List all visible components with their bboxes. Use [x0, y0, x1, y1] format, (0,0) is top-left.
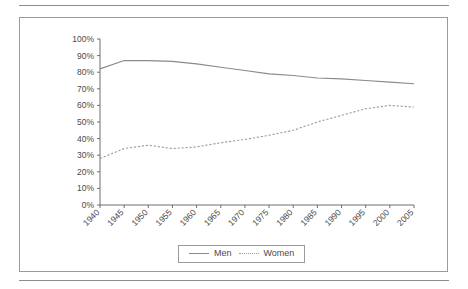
bottom-horizontal-rule	[19, 280, 449, 281]
x-axis-tick-label: 1995	[347, 207, 368, 228]
chart-page: 0%10%20%30%40%50%60%70%80%90%100% 194019…	[0, 0, 468, 289]
legend-label-men: Men	[214, 249, 232, 258]
series-group	[100, 61, 414, 159]
x-axis-tick-label: 2000	[371, 207, 392, 228]
top-horizontal-rule	[19, 5, 449, 6]
series-line-men	[100, 61, 414, 84]
x-axis-tick-label: 1990	[323, 207, 344, 228]
y-axis-tick-label: 70%	[77, 84, 94, 94]
y-axis-tick-label: 30%	[77, 150, 94, 160]
y-axis-tick-label: 40%	[77, 134, 94, 144]
y-axis-tick-label: 80%	[77, 67, 94, 77]
x-axis-tick-label: 1955	[153, 207, 174, 228]
legend-label-women: Women	[264, 249, 295, 258]
x-axis-tick-label: 1970	[226, 207, 247, 228]
x-axis-tick-labels: 1940194519501955196019651970197519801985…	[81, 207, 416, 228]
x-axis-tick-label: 2005	[395, 207, 416, 228]
y-axis-tick-label: 60%	[77, 100, 94, 110]
chart-frame: 0%10%20%30%40%50%60%70%80%90%100% 194019…	[19, 17, 448, 272]
x-axis-tick-label: 1985	[298, 207, 319, 228]
legend-swatch-women-dotted-line-icon	[239, 253, 259, 254]
x-axis-tick-label: 1950	[129, 207, 150, 228]
y-axis-tick-label: 100%	[72, 34, 94, 44]
legend-entry-men: Men	[189, 249, 232, 258]
x-axis-tick-label: 1945	[105, 207, 126, 228]
y-axis-tick-label: 20%	[77, 167, 94, 177]
x-axis-tick-label: 1975	[250, 207, 271, 228]
legend-swatch-men-solid-line-icon	[189, 253, 209, 254]
y-axis-group: 0%10%20%30%40%50%60%70%80%90%100%	[72, 34, 100, 210]
y-axis-tick-label: 10%	[77, 183, 94, 193]
y-axis-tick-label: 50%	[77, 117, 94, 127]
x-axis-tick-label: 1965	[202, 207, 223, 228]
x-axis-group: 1940194519501955196019651970197519801985…	[81, 205, 416, 228]
legend-entry-women: Women	[239, 249, 295, 258]
chart-legend: Men Women	[178, 245, 305, 263]
y-axis-tick-labels: 0%10%20%30%40%50%60%70%80%90%100%	[72, 34, 94, 210]
x-axis-tick-label: 1960	[178, 207, 199, 228]
series-line-women	[100, 105, 414, 158]
x-axis-tick-label: 1940	[81, 207, 102, 228]
y-axis-tick-label: 90%	[77, 51, 94, 61]
x-axis-tick-label: 1980	[274, 207, 295, 228]
line-chart-plot: 0%10%20%30%40%50%60%70%80%90%100% 194019…	[20, 18, 447, 271]
